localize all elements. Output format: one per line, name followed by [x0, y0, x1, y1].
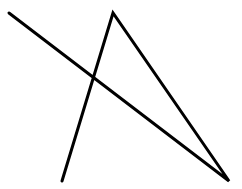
- polyline-shape: [9, 13, 229, 181]
- line-drawing: [0, 0, 242, 189]
- drawing-canvas: [0, 0, 242, 189]
